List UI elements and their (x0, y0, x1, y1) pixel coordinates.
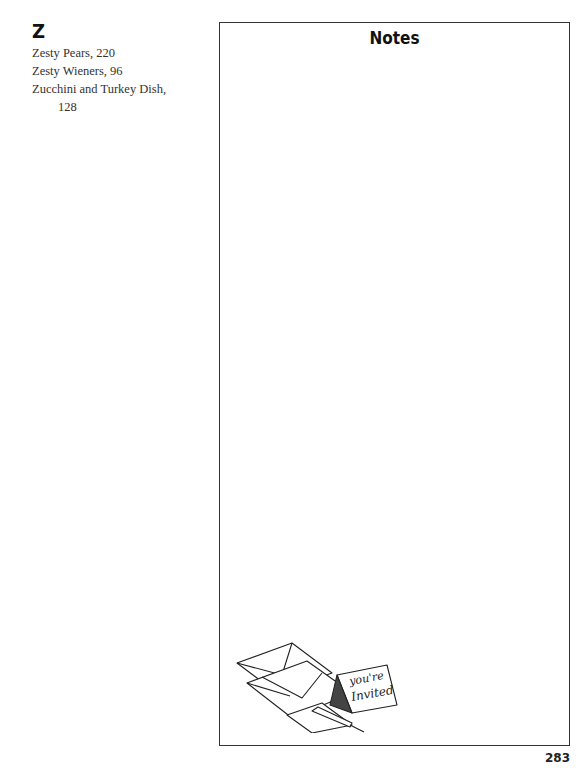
entry-name: Zesty Wieners, (32, 64, 107, 78)
invitation-illustration-icon: you're Invited (232, 633, 412, 733)
entry-name: Zesty Pears, (32, 46, 93, 60)
entry-page: 96 (110, 64, 123, 78)
index-entry: Zesty Wieners, 96 (32, 62, 212, 80)
notes-title: Notes (246, 27, 543, 48)
index-column: Z Zesty Pears, 220 Zesty Wieners, 96 Zuc… (32, 20, 212, 116)
entry-name: Zucchini and Turkey Dish, (32, 82, 166, 96)
entry-page: 220 (96, 46, 115, 60)
notes-box: Notes you're Invited (219, 22, 570, 746)
index-letter-heading: Z (32, 20, 194, 42)
entry-page: 128 (42, 98, 212, 116)
index-entry: Zucchini and Turkey Dish, 128 (32, 80, 212, 116)
index-entry: Zesty Pears, 220 (32, 44, 212, 62)
page-number: 283 (545, 751, 570, 765)
